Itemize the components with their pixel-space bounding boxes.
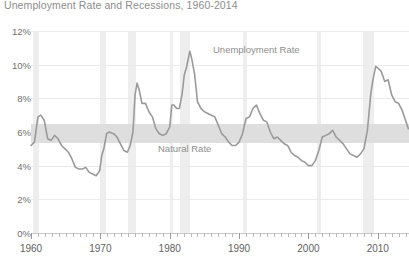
- x-axis-minor-tick: [225, 233, 226, 237]
- x-axis-minor-tick: [399, 233, 400, 237]
- x-axis-minor-tick: [156, 233, 157, 237]
- x-axis-minor-tick: [253, 233, 254, 237]
- chart-title: Unemployment Rate and Recessions, 1960-2…: [4, 0, 238, 11]
- x-axis-minor-tick: [149, 233, 150, 237]
- x-axis-tick-label: 1960: [20, 243, 42, 254]
- x-axis-minor-tick: [315, 233, 316, 237]
- x-axis-minor-tick: [191, 233, 192, 237]
- x-axis-minor-tick: [364, 233, 365, 237]
- x-axis-minor-tick: [343, 233, 344, 237]
- x-axis-major-tick: [378, 233, 379, 239]
- unemployment-rate-annotation: Unemployment Rate: [213, 44, 300, 55]
- x-axis-minor-tick: [80, 233, 81, 237]
- x-axis-minor-tick: [197, 233, 198, 237]
- x-axis-minor-tick: [52, 233, 53, 237]
- x-axis-minor-tick: [336, 233, 337, 237]
- chart-container: Unemployment Rate and Recessions, 1960-2…: [0, 0, 409, 264]
- x-axis-major-tick: [239, 233, 240, 239]
- x-axis-minor-tick: [73, 233, 74, 237]
- y-axis-tick-label: 6%: [3, 127, 31, 138]
- y-axis-tick-label: 12%: [3, 26, 31, 37]
- x-axis-tick-label: 1970: [89, 243, 111, 254]
- x-axis-minor-tick: [350, 233, 351, 237]
- x-axis-minor-tick: [329, 233, 330, 237]
- x-axis-minor-tick: [301, 233, 302, 237]
- x-axis-minor-tick: [357, 233, 358, 237]
- series-line: [31, 51, 408, 176]
- x-axis-minor-tick: [86, 233, 87, 237]
- x-axis-minor-tick: [267, 233, 268, 237]
- x-axis-minor-tick: [406, 233, 407, 237]
- y-axis-tick-label: 0%: [3, 228, 31, 239]
- x-axis-minor-tick: [204, 233, 205, 237]
- y-axis-tick-label: 10%: [3, 59, 31, 70]
- x-axis-minor-tick: [392, 233, 393, 237]
- x-axis-minor-tick: [218, 233, 219, 237]
- x-axis-minor-tick: [163, 233, 164, 237]
- x-axis-minor-tick: [274, 233, 275, 237]
- x-axis-minor-tick: [59, 233, 60, 237]
- x-axis-minor-tick: [385, 233, 386, 237]
- x-axis-minor-tick: [128, 233, 129, 237]
- x-axis-minor-tick: [211, 233, 212, 237]
- x-axis-minor-tick: [135, 233, 136, 237]
- x-axis-minor-tick: [114, 233, 115, 237]
- y-axis-tick-label: 2%: [3, 194, 31, 205]
- x-axis-tick-label: 2000: [297, 243, 319, 254]
- x-axis-major-tick: [100, 233, 101, 239]
- y-axis: 12%10%8%6%4%2%0%: [0, 0, 31, 264]
- x-axis-tick-label: 2010: [367, 243, 389, 254]
- x-axis-minor-tick: [281, 233, 282, 237]
- y-axis-tick-label: 4%: [3, 160, 31, 171]
- x-axis-minor-tick: [295, 233, 296, 237]
- x-axis-minor-tick: [38, 233, 39, 237]
- x-axis-major-tick: [308, 233, 309, 239]
- plot-area: [31, 31, 409, 233]
- x-axis-minor-tick: [66, 233, 67, 237]
- x-axis-baseline: [31, 233, 409, 234]
- x-axis-minor-tick: [371, 233, 372, 237]
- x-axis-minor-tick: [322, 233, 323, 237]
- unemployment-line-series: [31, 31, 409, 233]
- natural-rate-annotation: Natural Rate: [158, 143, 211, 154]
- x-axis-minor-tick: [260, 233, 261, 237]
- x-axis-minor-tick: [93, 233, 94, 237]
- x-axis-tick-label: 1980: [159, 243, 181, 254]
- x-axis-minor-tick: [184, 233, 185, 237]
- x-axis-minor-tick: [142, 233, 143, 237]
- x-axis-major-tick: [170, 233, 171, 239]
- x-axis-minor-tick: [107, 233, 108, 237]
- x-axis-minor-tick: [288, 233, 289, 237]
- x-axis-minor-tick: [121, 233, 122, 237]
- x-axis-minor-tick: [232, 233, 233, 237]
- y-axis-tick-label: 8%: [3, 93, 31, 104]
- x-axis-major-tick: [31, 233, 32, 239]
- x-axis-tick-label: 1990: [228, 243, 250, 254]
- x-axis-minor-tick: [246, 233, 247, 237]
- x-axis-minor-tick: [177, 233, 178, 237]
- x-axis-minor-tick: [45, 233, 46, 237]
